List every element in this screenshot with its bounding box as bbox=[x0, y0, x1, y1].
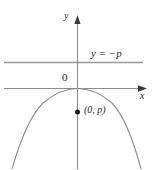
origin-label: 0 bbox=[62, 72, 68, 83]
focus-point-label: (0, p) bbox=[84, 105, 106, 115]
directrix-label: y = −p bbox=[91, 48, 122, 59]
figure-canvas bbox=[0, 0, 154, 169]
x-axis-label: x bbox=[140, 91, 144, 101]
parabola-curve bbox=[12, 89, 141, 170]
y-axis-arrow-icon bbox=[74, 15, 80, 24]
parabola-figure: y x 0 y = −p (0, p) bbox=[0, 0, 154, 169]
y-axis-label: y bbox=[64, 11, 68, 21]
focus-point-dot bbox=[75, 110, 80, 115]
